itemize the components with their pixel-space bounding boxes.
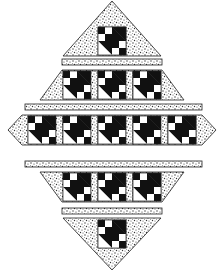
patch <box>105 180 112 187</box>
patch <box>105 227 112 234</box>
patch <box>98 78 105 85</box>
patch <box>119 241 126 248</box>
sashing-vertical <box>126 116 133 144</box>
patch <box>119 85 126 92</box>
patch <box>140 71 147 78</box>
patch <box>98 180 105 187</box>
patch <box>63 173 70 180</box>
patch <box>112 137 119 144</box>
patch <box>154 92 161 99</box>
patch <box>133 71 140 78</box>
patch <box>119 92 126 99</box>
sashing-vertical <box>56 116 63 144</box>
patch <box>140 180 147 187</box>
patch <box>105 220 112 227</box>
patch <box>175 116 182 123</box>
patch <box>77 187 84 194</box>
patch <box>35 123 42 130</box>
patch <box>112 194 119 201</box>
patch <box>119 41 126 48</box>
patch <box>189 137 196 144</box>
patch <box>112 85 119 92</box>
patch <box>84 187 91 194</box>
patch <box>63 71 70 78</box>
patch <box>119 48 126 55</box>
patch <box>112 234 119 241</box>
patch <box>133 123 140 130</box>
sashing-vertical <box>126 173 133 201</box>
patch <box>77 137 84 144</box>
sashing-strip <box>62 208 162 214</box>
patch <box>112 130 119 137</box>
patch <box>168 116 175 123</box>
patch <box>105 34 112 41</box>
patch <box>168 123 175 130</box>
quilt-diagram: Quilt table runner diagram <box>0 0 224 272</box>
patch <box>119 137 126 144</box>
patch <box>98 34 105 41</box>
patch <box>49 137 56 144</box>
patch <box>70 173 77 180</box>
sashing-vertical <box>126 71 133 99</box>
patch <box>98 27 105 34</box>
patch <box>84 130 91 137</box>
patch <box>105 116 112 123</box>
sashing-vertical <box>91 116 98 144</box>
patch <box>112 41 119 48</box>
patch <box>84 92 91 99</box>
patch <box>112 48 119 55</box>
patch <box>119 234 126 241</box>
patch <box>49 130 56 137</box>
patch <box>70 78 77 85</box>
patch <box>140 116 147 123</box>
patch <box>147 194 154 201</box>
patch <box>105 173 112 180</box>
patch <box>63 123 70 130</box>
sashing-strip <box>62 59 162 65</box>
patch <box>182 130 189 137</box>
patch <box>35 116 42 123</box>
patch <box>63 180 70 187</box>
quilt-layers <box>8 1 216 270</box>
patch <box>84 194 91 201</box>
patch <box>98 71 105 78</box>
patch <box>154 85 161 92</box>
patch <box>147 85 154 92</box>
sashing-vertical <box>91 173 98 201</box>
patch <box>84 85 91 92</box>
patch <box>133 78 140 85</box>
patch <box>154 137 161 144</box>
patch <box>98 116 105 123</box>
patch <box>105 78 112 85</box>
patch <box>154 130 161 137</box>
sashing-strip <box>25 104 202 110</box>
patch <box>147 187 154 194</box>
patch <box>77 194 84 201</box>
patch <box>147 137 154 144</box>
patch <box>42 137 49 144</box>
patch <box>77 130 84 137</box>
patch <box>119 187 126 194</box>
patch <box>154 194 161 201</box>
patch <box>105 71 112 78</box>
patch <box>133 173 140 180</box>
patch <box>70 116 77 123</box>
patch <box>28 116 35 123</box>
patch <box>42 130 49 137</box>
patch <box>70 71 77 78</box>
patch <box>140 78 147 85</box>
patch <box>98 220 105 227</box>
patch <box>140 123 147 130</box>
patch <box>98 123 105 130</box>
patch <box>98 173 105 180</box>
patch <box>147 130 154 137</box>
patch <box>133 180 140 187</box>
sashing-vertical <box>91 71 98 99</box>
patch <box>175 123 182 130</box>
patch <box>154 187 161 194</box>
patch <box>147 92 154 99</box>
patch <box>28 123 35 130</box>
patch <box>77 92 84 99</box>
patch <box>133 116 140 123</box>
quilt-svg <box>0 0 224 272</box>
